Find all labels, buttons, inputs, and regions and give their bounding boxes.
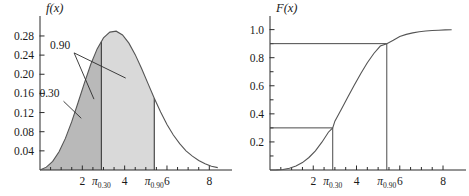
quantile-sublabel: 0.30 (98, 181, 111, 190)
quantile-label-pi-0.90: π0.90 (377, 175, 396, 190)
y-tick-label: 0.24 (14, 49, 34, 61)
x-tick-label: 2 (310, 175, 316, 187)
y-tick-label: 0.12 (14, 107, 34, 119)
x-tick-label: 4 (354, 175, 360, 187)
pdf-panel: 24680.040.080.120.160.200.240.28π0.30π0.… (0, 0, 234, 196)
x-tick-label: 8 (440, 175, 446, 187)
quantile-sublabel: 0.90 (383, 181, 396, 190)
annotation-label-0.90: 0.90 (50, 39, 70, 51)
y-tick-label: 0.8 (250, 52, 265, 64)
quantile-sublabel: 0.30 (329, 181, 342, 190)
x-tick-label: 6 (397, 175, 403, 187)
y-axis-title: f(x) (46, 1, 63, 15)
y-tick-label: 0.04 (14, 145, 34, 157)
y-tick-label: 0.4 (250, 108, 265, 120)
y-tick-label: 0.6 (250, 80, 265, 92)
x-tick-label: 4 (122, 175, 128, 187)
x-tick-label: 6 (164, 175, 170, 187)
curve-cdf (270, 30, 452, 170)
quantile-label-pi-0.90: π0.90 (145, 175, 164, 190)
y-tick-label: 0.2 (250, 136, 265, 148)
y-tick-label: 0.28 (14, 30, 34, 42)
x-tick-label: 2 (79, 175, 85, 187)
annotation-label-0.30: 0.30 (39, 87, 59, 99)
y-tick-label: 0.16 (14, 87, 34, 99)
y-tick-label: 1.0 (250, 24, 265, 36)
y-tick-label: 0.20 (14, 68, 34, 80)
quantile-label-pi-0.30: π0.30 (323, 175, 342, 190)
y-tick-label: 0.08 (14, 126, 34, 138)
y-axis-title: F(x) (275, 1, 298, 15)
quantile-sublabel: 0.90 (151, 181, 164, 190)
pdf-plot: 24680.040.080.120.160.200.240.28π0.30π0.… (0, 0, 234, 196)
cdf-plot: 24680.20.40.60.81.0π0.30π0.90F(x)x (234, 0, 469, 196)
quantile-label-pi-0.30: π0.30 (92, 175, 111, 190)
cdf-panel: 24680.20.40.60.81.0π0.30π0.90F(x)x (234, 0, 468, 196)
x-tick-label: 8 (206, 175, 212, 187)
shaded-region-region-to-0.90 (101, 31, 154, 170)
